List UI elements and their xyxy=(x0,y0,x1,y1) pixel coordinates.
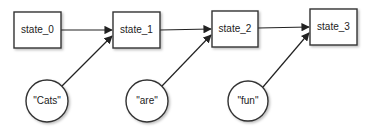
state-node-3: state_3 xyxy=(310,9,357,45)
input-label-2: "fun" xyxy=(237,95,258,106)
state-node-0: state_0 xyxy=(14,12,61,48)
input-label-0: "Cats" xyxy=(33,95,61,106)
input-label-1: "are" xyxy=(136,95,158,106)
input-node-2: "fun" xyxy=(228,81,268,121)
state-node-2: state_2 xyxy=(212,11,258,47)
edge-input2-state3 xyxy=(263,33,309,87)
state-label-0: state_0 xyxy=(21,24,54,35)
edge-state2-state3 xyxy=(258,27,309,28)
input-node-1: "are" xyxy=(126,80,168,122)
state-label-2: state_2 xyxy=(219,23,252,34)
edge-input1-state2 xyxy=(162,35,211,86)
state-label-1: state_1 xyxy=(120,24,153,35)
edge-state1-state2 xyxy=(160,29,211,30)
state-node-1: state_1 xyxy=(113,12,160,48)
input-node-0: "Cats" xyxy=(26,80,68,122)
state-label-3: state_3 xyxy=(317,21,350,32)
edge-input0-state1 xyxy=(62,36,112,86)
diagram-canvas: state_0 state_1 state_2 state_3 "Cats" "… xyxy=(0,0,371,130)
